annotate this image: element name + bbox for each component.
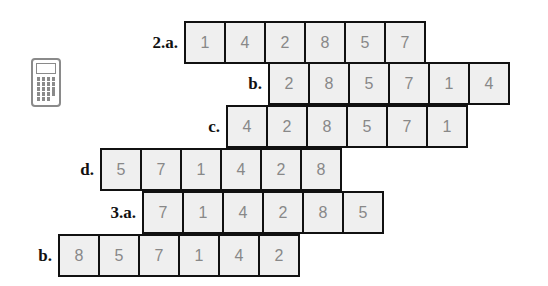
digit-cell: 4 [224,21,266,64]
digit-cell: 7 [384,21,426,64]
row-label-3a: 3.a. [76,191,136,234]
digit-cell: 7 [142,191,184,234]
digit-row-2c: 4 2 8 5 7 1 [226,105,468,148]
digit-row-3b: 8 5 7 1 4 2 [58,234,300,277]
calculator-keys [37,77,55,101]
calculator-icon [31,58,61,107]
digit-cell: 1 [428,62,470,105]
digit-cell: 8 [308,62,350,105]
digit-cell: 2 [258,234,300,277]
digit-cell: 7 [138,234,180,277]
digit-cell: 2 [260,148,302,191]
digit-cell: 1 [426,105,468,148]
row-label-2b: b. [202,62,262,105]
digit-cell: 2 [268,62,310,105]
calculator-screen [36,63,56,74]
digit-cell: 2 [266,105,308,148]
digit-row-3a: 7 1 4 2 8 5 [142,191,384,234]
digit-cell: 4 [220,148,262,191]
row-label-2d: d. [34,148,94,191]
digit-row-2a: 1 4 2 8 5 7 [184,21,426,64]
digit-cell: 5 [100,148,142,191]
digit-cell: 1 [184,21,226,64]
digit-cell: 8 [58,234,100,277]
digit-cell: 4 [218,234,260,277]
digit-row-2b: 2 8 5 7 1 4 [268,62,510,105]
digit-cell: 7 [386,105,428,148]
digit-cell: 4 [226,105,268,148]
digit-cell: 4 [468,62,510,105]
digit-cell: 2 [262,191,304,234]
digit-cell: 1 [180,148,222,191]
digit-cell: 8 [306,105,348,148]
digit-cell: 5 [346,105,388,148]
digit-cell: 1 [182,191,224,234]
digit-row-2d: 5 7 1 4 2 8 [100,148,342,191]
digit-cell: 7 [140,148,182,191]
digit-cell: 5 [348,62,390,105]
digit-cell: 5 [344,21,386,64]
digit-cell: 5 [98,234,140,277]
digit-cell: 1 [178,234,220,277]
digit-cell: 7 [388,62,430,105]
digit-cell: 2 [264,21,306,64]
digit-cell: 8 [302,191,344,234]
row-label-3b: b. [0,234,52,277]
digit-cell: 8 [304,21,346,64]
row-label-2c: c. [160,105,220,148]
digit-cell: 8 [300,148,342,191]
digit-cell: 5 [342,191,384,234]
row-label-2a: 2.a. [118,21,178,64]
digit-cell: 4 [222,191,264,234]
